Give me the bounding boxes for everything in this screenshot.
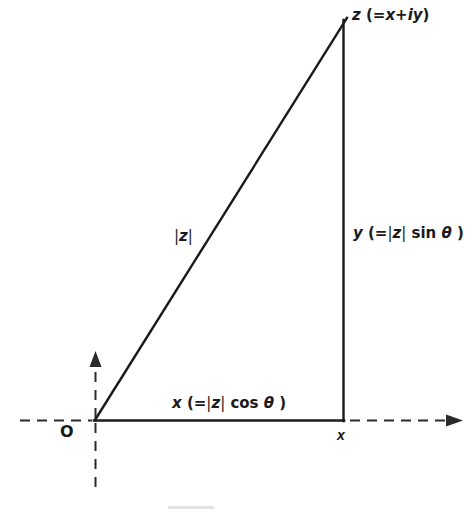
label-x-modulus: z (211, 394, 220, 412)
label-x-function: cos (225, 394, 264, 412)
imaginary-axis-arrowhead-icon (90, 351, 102, 367)
label-origin: O (60, 424, 74, 440)
label-x-close: ) (274, 394, 286, 412)
label-z-plus: + (395, 6, 408, 24)
label-modulus-bar-right: | (188, 227, 193, 245)
caption-artifact (168, 506, 214, 509)
label-y-modulus: z (393, 224, 402, 242)
label-modulus-symbol: z (179, 227, 188, 245)
label-y-angle: θ (442, 224, 452, 242)
label-x-symbol: x (172, 394, 182, 412)
label-y-symbol: y (353, 224, 363, 242)
complex-number-diagram: z (=x+iy) y (=|z| sin θ ) x (=|z| cos θ … (0, 0, 474, 516)
label-x-open: (= (182, 394, 207, 412)
label-x-axis-point: x (337, 428, 345, 442)
label-y-vertical-leg: y (=|z| sin θ ) (353, 226, 464, 241)
label-z-apex: z (=x+iy) (352, 8, 429, 23)
label-modulus-hypotenuse: |z| (174, 229, 193, 244)
label-x-horizontal-leg: x (=|z| cos θ ) (172, 396, 286, 411)
label-z-imaginary: iy (408, 6, 423, 24)
label-y-close: ) (452, 224, 464, 242)
hypotenuse-line (95, 18, 347, 420)
label-y-open: (= (363, 224, 388, 242)
label-x-angle: θ (264, 394, 274, 412)
label-z-open: (= (361, 6, 386, 24)
label-z-symbol: z (352, 6, 361, 24)
label-z-real: x (385, 6, 395, 24)
real-axis-arrowhead-icon (446, 415, 463, 427)
label-z-close: ) (423, 6, 430, 24)
label-y-function: sin (406, 224, 441, 242)
